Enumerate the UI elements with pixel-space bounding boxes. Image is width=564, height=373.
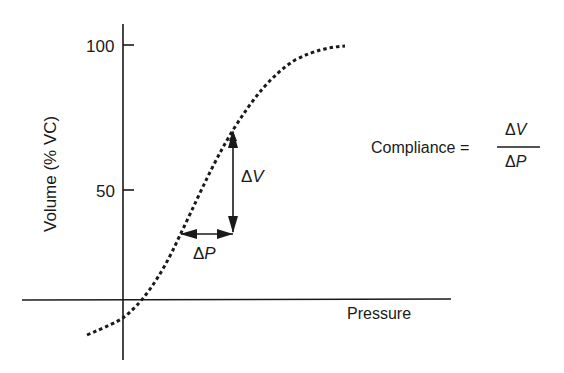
formula-num-var: V xyxy=(516,121,527,138)
delta-v-var: V xyxy=(252,167,263,186)
diagram-graphics xyxy=(0,0,564,373)
tick-label-100: 100 xyxy=(86,38,114,55)
compliance-diagram: 100 50 Volume (% VC) Pressure ΔV ΔP Comp… xyxy=(0,0,564,373)
delta-p-arrowhead-left xyxy=(180,229,197,239)
delta-v-arrowhead-top xyxy=(228,130,238,148)
delta-v-label: ΔV xyxy=(241,168,264,185)
delta-v-arrowhead-bottom xyxy=(228,216,238,233)
delta-p-label: ΔP xyxy=(193,245,216,262)
x-axis xyxy=(22,299,451,300)
formula-denominator: ΔP xyxy=(505,154,526,170)
formula-lhs: Compliance = xyxy=(371,140,469,156)
formula-den-var: P xyxy=(516,153,527,170)
delta-p-arrowhead-right xyxy=(217,229,233,239)
x-axis-label: Pressure xyxy=(347,306,411,322)
tick-label-50: 50 xyxy=(96,183,115,200)
delta-p-var: P xyxy=(204,244,215,263)
formula-numerator: ΔV xyxy=(505,122,526,138)
